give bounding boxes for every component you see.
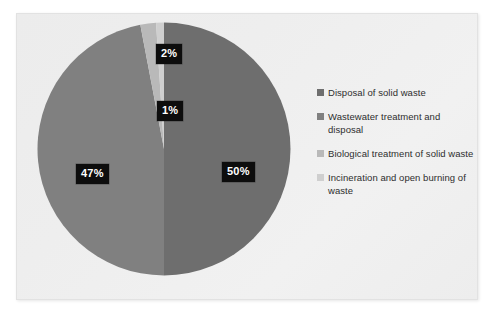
legend-item-label: Incineration and open burning of waste — [328, 171, 477, 197]
pie-slice[interactable] — [38, 25, 164, 276]
legend-item-disposal[interactable]: Disposal of solid waste — [317, 86, 477, 99]
data-label-wastewater: 47% — [76, 164, 109, 184]
chart-legend: Disposal of solid waste Wastewater treat… — [317, 86, 477, 208]
chart-frame: 2% 1% 47% 50% Disposal of solid waste Wa… — [16, 13, 478, 300]
legend-swatch-icon — [317, 174, 324, 181]
data-label-disposal: 50% — [222, 162, 255, 182]
legend-item-biological[interactable]: Biological treatment of solid waste — [317, 147, 477, 160]
pie-plot-area: 2% 1% 47% 50% — [17, 14, 317, 301]
legend-swatch-icon — [317, 89, 324, 96]
legend-item-label: Biological treatment of solid waste — [328, 147, 473, 160]
legend-swatch-icon — [317, 150, 324, 157]
data-label-incineration: 1% — [157, 101, 183, 121]
legend-item-incineration[interactable]: Incineration and open burning of waste — [317, 171, 477, 197]
legend-item-label: Wastewater treatment and disposal — [328, 110, 477, 136]
data-label-biological: 2% — [156, 44, 182, 64]
legend-item-wastewater[interactable]: Wastewater treatment and disposal — [317, 110, 477, 136]
pie-slice[interactable] — [164, 23, 291, 276]
legend-swatch-icon — [317, 113, 324, 120]
legend-item-label: Disposal of solid waste — [328, 86, 426, 99]
